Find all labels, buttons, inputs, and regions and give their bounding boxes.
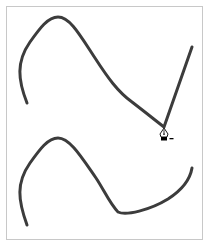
bottom-curve-path[interactable] xyxy=(20,138,192,225)
top-curve-path[interactable] xyxy=(20,17,192,127)
pen-delete-anchor-cursor xyxy=(160,128,174,141)
minus-icon xyxy=(170,138,174,139)
pen-nib-icon xyxy=(160,128,168,141)
